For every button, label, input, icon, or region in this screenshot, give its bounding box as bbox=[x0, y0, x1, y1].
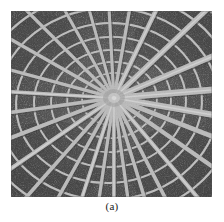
figure-caption: (a) bbox=[0, 200, 224, 213]
spider-web-graphic bbox=[11, 11, 212, 197]
spider-web-photograph bbox=[11, 11, 212, 197]
figure-panel: (a) bbox=[0, 0, 224, 222]
photo-noise bbox=[11, 11, 212, 197]
